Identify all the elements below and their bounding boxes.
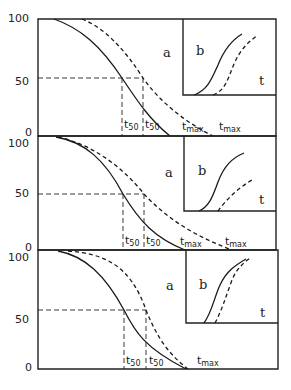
panel-3-inset-solid-curve (204, 259, 246, 323)
panel-2-solid-curve (56, 137, 185, 250)
panel-3-t50-solid: t50 (126, 355, 141, 370)
panel-2-dashed-curve (58, 137, 232, 250)
panel-2-ytick-100: 100 (8, 138, 29, 150)
panel-1-ytick-50: 50 (15, 76, 29, 88)
panel-3-frame (38, 250, 278, 369)
panel-2-t50-solid: t50 (125, 235, 140, 250)
panel-3-inset-label-b: b (199, 279, 207, 291)
panel-1-tmax-dashed: tmax (219, 121, 241, 136)
panel-2-tmax-dashed: tmax (225, 236, 247, 251)
panel-1-label-a: a (163, 47, 171, 59)
panel-1-t50-solid: t50 (124, 119, 139, 134)
panel-3-inset-t-axis: t (260, 307, 265, 319)
panel-1-t50-dashed: t50 (145, 119, 160, 134)
panel-1-inset-label-b: b (196, 45, 204, 57)
panel-2-t50-dashed: t50 (146, 235, 161, 250)
panel-2-inset-t-axis: t (259, 194, 264, 206)
panel-1-ytick-100: 100 (8, 13, 29, 25)
panel-2 (38, 136, 276, 250)
panel-3-tmax: tmax (197, 355, 219, 370)
panel-2-ytick-50: 50 (15, 188, 29, 200)
panel-3-t50-dashed: t50 (149, 355, 164, 370)
panel-3-ytick-100: 100 (8, 252, 29, 264)
panel-2-label-a: a (165, 167, 173, 179)
panel-3-label-a: a (166, 280, 174, 292)
three-panel-decay-diagram: 100 50 0 a b t t50 t50 tmax tmax 100 50 … (0, 0, 291, 390)
panel-2-frame (38, 136, 276, 250)
panel-1-tmax-solid: tmax (182, 121, 204, 136)
panel-1-inset-t-axis: t (259, 75, 264, 87)
panel-2-inset-dashed-curve (218, 180, 252, 211)
panel-2-inset-solid-curve (199, 153, 244, 211)
panel-1-inset-dashed-curve (213, 35, 258, 95)
panel-3 (38, 250, 278, 369)
panel-2-tmax-solid: tmax (180, 236, 202, 251)
diagram-canvas (0, 0, 291, 390)
panel-3-ytick-50: 50 (15, 314, 29, 326)
panel-2-inset-label-b: b (198, 165, 206, 177)
panel-3-ytick-0: 0 (25, 362, 32, 374)
